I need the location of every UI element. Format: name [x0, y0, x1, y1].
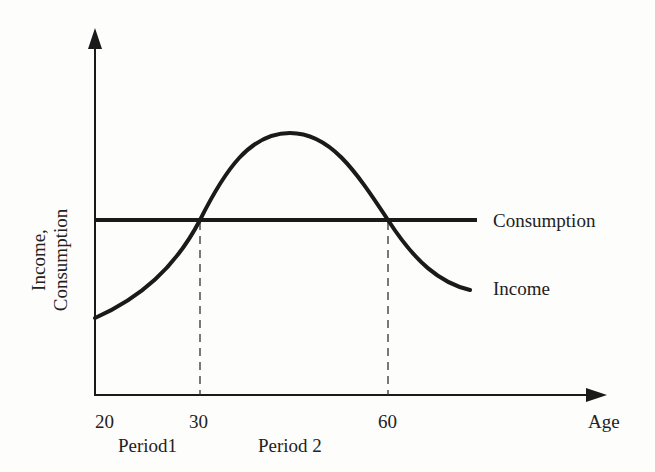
period2-label: Period 2 [258, 436, 322, 455]
y-axis-arrow-icon [88, 28, 102, 49]
x-axis-arrow-icon [586, 388, 607, 402]
tick-label-30: 30 [189, 412, 208, 431]
tick-label-60: 60 [378, 412, 397, 431]
consumption-label: Consumption [493, 211, 595, 230]
x-axis-label: Age [588, 412, 620, 431]
y-axis-label: Income, Consumption [28, 200, 72, 320]
period1-label: Period1 [118, 436, 177, 455]
tick-label-20: 20 [95, 412, 114, 431]
y-axis-label-line1: Income, [28, 200, 50, 320]
life-cycle-diagram [0, 0, 655, 472]
y-axis-label-line2: Consumption [50, 200, 72, 320]
income-label: Income [493, 279, 550, 298]
income-curve [95, 133, 470, 318]
